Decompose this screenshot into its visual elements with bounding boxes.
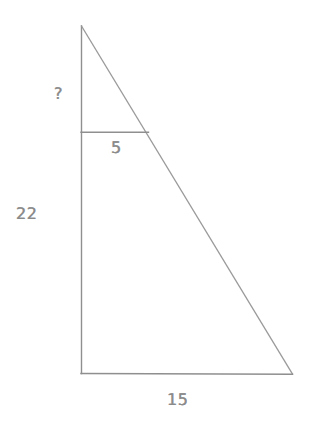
label-top-base: 5 [111,140,122,156]
label-full-height: 22 [16,206,37,222]
triangle-diagram-svg [0,0,310,424]
label-unknown-height: ? [54,86,63,102]
bottom-leg-line [81,374,293,375]
hypotenuse-line [82,26,293,374]
geometry-figure: ? 22 5 15 [0,0,310,424]
label-bottom-base: 15 [167,392,188,408]
